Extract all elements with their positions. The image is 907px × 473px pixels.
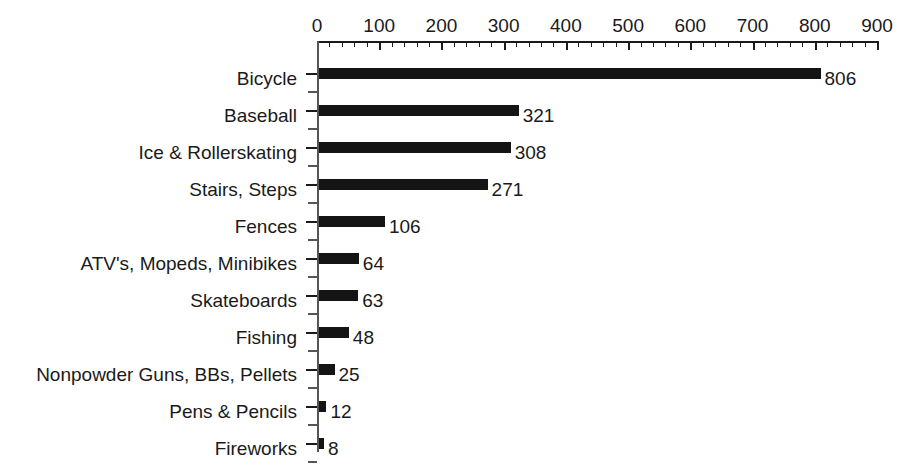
bar-value-label: 806 [825,69,857,88]
category-label: Nonpowder Guns, BBs, Pellets [36,365,297,384]
y-tick-mark [306,73,317,75]
category-label: Bicycle [237,69,297,88]
category-label: Fireworks [215,439,297,458]
y-tick-minor [308,350,317,352]
category-label: Fences [235,217,297,236]
bar-row[interactable]: ATV's, Mopeds, Minibikes64 [0,245,907,282]
bar-value-label: 64 [363,254,384,273]
bar-row[interactable]: Baseball321 [0,97,907,134]
bar-chart: 0100200300400500600700800900 Bicycle806B… [0,0,907,473]
category-label: Pens & Pencils [169,402,297,421]
bar[interactable] [319,290,358,301]
y-tick-minor [308,202,317,204]
bar-value-label: 48 [353,328,374,347]
bar-value-label: 321 [523,106,555,125]
bar-value-label: 106 [389,217,421,236]
y-tick-minor [308,276,317,278]
y-tick-minor [308,387,317,389]
y-tick-minor [308,239,317,241]
bar-value-label: 12 [330,402,351,421]
bar-value-label: 271 [492,180,524,199]
bar[interactable] [319,253,359,264]
bar-value-label: 25 [339,365,360,384]
bar[interactable] [319,216,385,227]
category-label: Fishing [236,328,297,347]
y-tick-mark [306,332,317,334]
bar-row[interactable]: Fireworks8 [0,430,907,467]
y-tick-mark [306,443,317,445]
category-label: Stairs, Steps [189,180,297,199]
y-tick-mark [306,406,317,408]
category-label: Baseball [224,106,297,125]
bar[interactable] [319,401,326,412]
y-tick-mark [306,295,317,297]
y-tick-minor [308,91,317,93]
bar-row[interactable]: Nonpowder Guns, BBs, Pellets25 [0,356,907,393]
y-tick-mark [306,110,317,112]
bar[interactable] [319,105,519,116]
bar-row[interactable]: Ice & Rollerskating308 [0,134,907,171]
bar-row[interactable]: Stairs, Steps271 [0,171,907,208]
category-label: Ice & Rollerskating [139,143,297,162]
bar-value-label: 308 [515,143,547,162]
y-tick-minor [308,165,317,167]
y-tick-mark [306,369,317,371]
category-label: ATV's, Mopeds, Minibikes [80,254,297,273]
bar-row[interactable]: Bicycle806 [0,60,907,97]
bar-row[interactable]: Pens & Pencils12 [0,393,907,430]
bar-row[interactable]: Fences106 [0,208,907,245]
bar[interactable] [319,438,324,449]
bar[interactable] [319,142,511,153]
bar-rows: Bicycle806Baseball321Ice & Rollerskating… [0,0,907,473]
y-tick-mark [306,147,317,149]
bar[interactable] [319,364,335,375]
y-tick-minor [308,461,317,463]
bar[interactable] [319,179,488,190]
y-tick-minor [308,313,317,315]
y-tick-minor [308,128,317,130]
y-tick-mark [306,184,317,186]
bar-row[interactable]: Skateboards63 [0,282,907,319]
y-tick-mark [306,221,317,223]
bar-value-label: 63 [362,291,383,310]
bar[interactable] [319,68,821,79]
bar[interactable] [319,327,349,338]
y-tick-mark [306,258,317,260]
bar-row[interactable]: Fishing48 [0,319,907,356]
category-label: Skateboards [190,291,297,310]
bar-value-label: 8 [328,439,339,458]
y-tick-minor [308,424,317,426]
